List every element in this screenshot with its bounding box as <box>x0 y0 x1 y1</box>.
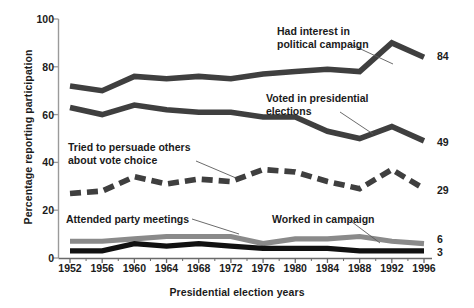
end-label-persuade: 29 <box>437 185 449 195</box>
annotation-had-interest: Had interest in political campaign <box>277 25 369 50</box>
end-label-had-interest: 84 <box>437 51 449 61</box>
leader-line-persuade <box>196 161 236 178</box>
series-attended-party-meetings <box>70 236 424 243</box>
y-axis-title: Percentage reporting participation <box>22 32 34 242</box>
annotation-persuade: Tried to persuade others about vote choi… <box>68 141 191 166</box>
chart-container: 100 80 60 40 20 0 1952195619601964196819… <box>0 0 474 308</box>
annotation-voted-line1: Voted in presidential <box>266 92 369 105</box>
end-label-worked: 3 <box>437 247 443 257</box>
annotation-attended: Attended party meetings <box>66 213 189 226</box>
y-tick-100: 100 <box>28 14 54 24</box>
series-voted-in-presidential-elections <box>70 105 424 141</box>
x-tick-1996: 1996 <box>404 262 444 274</box>
leader-line-attended <box>192 219 239 234</box>
annotation-persuade-line1: Tried to persuade others <box>68 141 191 154</box>
annotation-had-interest-line1: Had interest in <box>277 25 369 38</box>
annotation-worked: Worked in campaign <box>272 213 375 226</box>
annotation-attended-line1: Attended party meetings <box>66 213 189 226</box>
series-worked-in-campaign <box>70 244 424 251</box>
end-label-voted: 49 <box>437 137 449 147</box>
annotation-voted-line2: elections <box>266 105 369 118</box>
series-had-interest-in-political-campaign <box>70 43 424 91</box>
annotation-voted: Voted in presidential elections <box>266 92 369 117</box>
annotation-persuade-line2: about vote choice <box>68 154 191 167</box>
annotation-had-interest-line2: political campaign <box>277 38 369 51</box>
series-tried-to-persuade-others <box>70 170 424 194</box>
x-axis-title: Presidential election years <box>0 286 474 298</box>
end-label-attended: 6 <box>437 234 443 244</box>
annotation-worked-line1: Worked in campaign <box>272 213 375 226</box>
